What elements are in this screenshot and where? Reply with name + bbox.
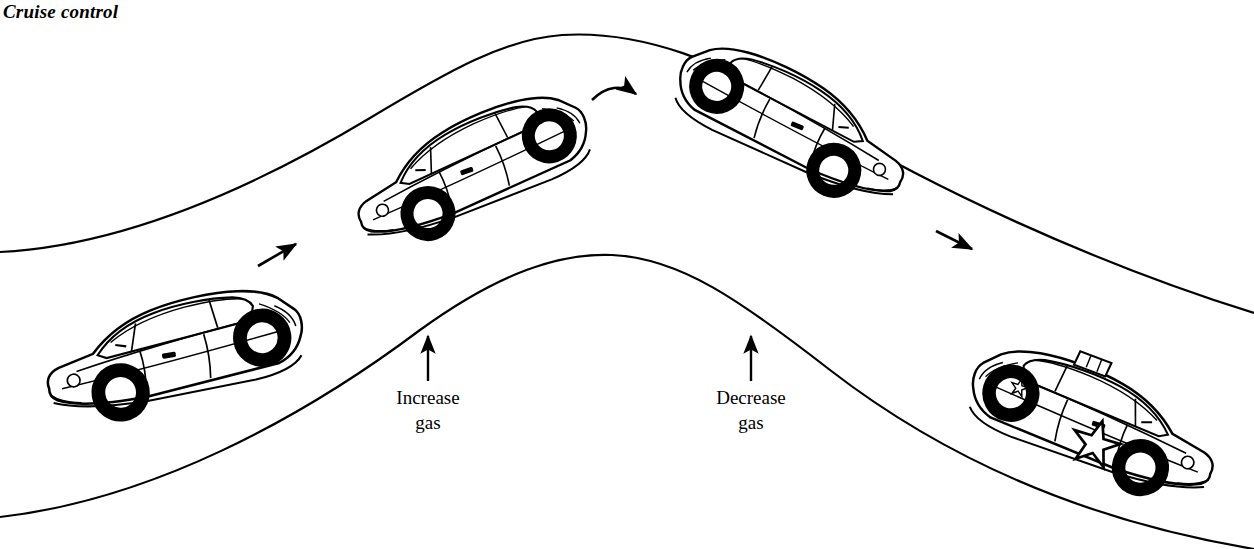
cruise-control-figure: Cruise control	[0, 0, 1254, 549]
decrease-gas-label-line1: Decrease	[716, 387, 786, 408]
road-upper-edge	[0, 34, 1254, 313]
increase-gas-callout: Increase gas	[396, 336, 459, 433]
car-crest-downhill	[660, 31, 925, 215]
car-police-downhill	[956, 324, 1234, 509]
road	[0, 34, 1254, 549]
illustration-canvas: Increase gas Decrease gas	[0, 0, 1254, 549]
increase-gas-label-line1: Increase	[396, 387, 459, 408]
uphill-direction-arrow	[258, 244, 296, 266]
car-uphill-bottom	[38, 281, 311, 426]
car-uphill-mid	[340, 81, 604, 255]
decrease-gas-label-line2: gas	[738, 412, 763, 433]
increase-gas-label-line2: gas	[415, 412, 440, 433]
crest-direction-arrow	[592, 88, 636, 100]
downhill-direction-arrow	[936, 231, 972, 249]
decrease-gas-callout: Decrease gas	[716, 336, 786, 433]
